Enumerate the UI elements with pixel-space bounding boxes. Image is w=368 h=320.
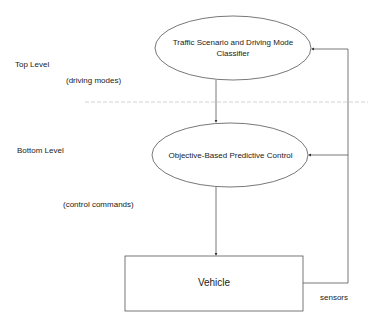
classifier-title-line1: Traffic Scenario and Driving Mode — [158, 37, 308, 48]
classifier-title-line2: Classifier — [158, 48, 308, 59]
diagram-canvas: Top Level Bottom Level Traffic Scenario … — [0, 0, 368, 320]
driving-modes-label: (driving modes) — [66, 76, 121, 86]
control-commands-label: (control commands) — [63, 200, 134, 210]
controller-node: Objective-Based Predictive Control — [148, 150, 313, 161]
edge-sensors-feedback — [303, 49, 348, 283]
vehicle-node: Vehicle — [125, 277, 303, 289]
sensors-label: sensors — [320, 293, 348, 303]
top-level-label: Top Level — [15, 60, 49, 70]
classifier-node: Traffic Scenario and Driving Mode Classi… — [158, 37, 308, 59]
bottom-level-label: Bottom Level — [17, 146, 64, 156]
